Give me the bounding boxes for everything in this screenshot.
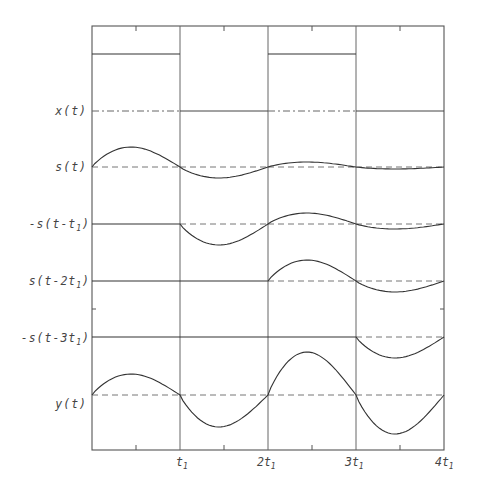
xtick-3t1: 3t1 (344, 455, 364, 471)
xtick-4t1: 4t1 (435, 455, 454, 471)
grid (92, 26, 444, 450)
signal-diagram: x(t) s(t) -s(t-t1) s(t-2t1) -s(t-3t1) y(… (0, 0, 481, 493)
label-s-shift3: -s(t-3t1) (21, 331, 90, 347)
label-s-shift2: s(t-2t1) (29, 274, 90, 290)
label-y: y(t) (54, 397, 87, 411)
signal-labels: x(t) s(t) -s(t-t1) s(t-2t1) -s(t-3t1) y(… (21, 104, 90, 411)
xtick-t1: t1 (176, 455, 188, 471)
label-s-shift1: -s(t-t1) (29, 217, 90, 233)
label-x: x(t) (54, 104, 87, 118)
x-axis-tick-labels: t1 2t1 3t1 4t1 (176, 455, 454, 471)
label-s: s(t) (55, 160, 87, 174)
xtick-2t1: 2t1 (257, 455, 276, 471)
